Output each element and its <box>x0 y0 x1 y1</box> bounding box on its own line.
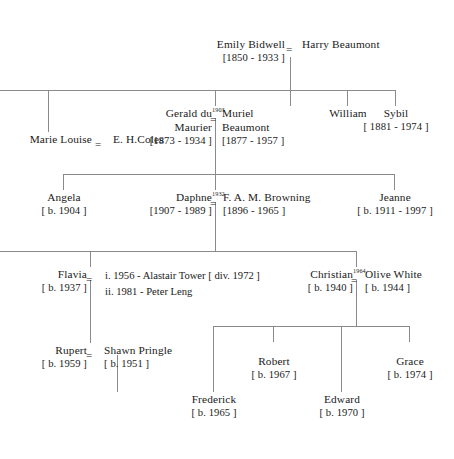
family-tree-diagram: Emily Bidwell [1850 - 1933 ] = Harry Bea… <box>0 0 454 459</box>
person-name: Flavia <box>8 268 87 282</box>
person-frederick: Frederick [ b. 1965 ] <box>174 393 254 420</box>
person-dates: [ b. 1911 - 1997 ] <box>351 205 439 218</box>
marriage-symbol-flavia: = <box>86 274 92 285</box>
person-daphne: Daphne [1907 - 1989 ] <box>133 191 212 218</box>
person-name: Harry Beaumont <box>302 38 432 52</box>
person-name: Edward <box>302 393 382 407</box>
person-dates: [1850 - 1933 ] <box>160 52 285 65</box>
person-shawn-pringle: Shawn Pringle [ b. 1951 ] <box>104 344 200 371</box>
person-name: Emily Bidwell <box>160 38 285 52</box>
person-angela: Angela [ b. 1904 ] <box>22 191 106 218</box>
marriage-symbol-rupert-shawn: = <box>86 350 92 361</box>
person-dates: [1896 - 1965 ] <box>223 205 349 218</box>
person-dates: [1873 - 1934 ] <box>130 135 212 148</box>
person-gerald-du-maurier: Gerald du Maurier [1873 - 1934 ] <box>130 107 212 147</box>
marriage-symbol-gerald-muriel: = <box>210 114 216 125</box>
connector-lines <box>0 0 454 459</box>
person-dates: [ b. 1965 ] <box>174 407 254 420</box>
person-flavia: Flavia [ b. 1937 ] <box>8 268 87 295</box>
person-dates: [1907 - 1989 ] <box>133 205 212 218</box>
person-dates: [ b. 1904 ] <box>22 205 106 218</box>
person-dates: [ b. 1959 ] <box>30 358 87 371</box>
person-dates: [1877 - 1957 ] <box>222 135 314 148</box>
person-name: Christian <box>272 268 353 282</box>
person-name: Robert <box>234 355 314 369</box>
person-name: Rupert <box>30 344 87 358</box>
person-dates: [ b. 1940 ] <box>272 282 353 295</box>
marriage-symbol-christian-olive: = <box>351 275 357 286</box>
person-dates: [ b. 1970 ] <box>302 407 382 420</box>
person-emily-bidwell: Emily Bidwell [1850 - 1933 ] <box>160 38 285 65</box>
person-name: F. A. M. Browning <box>223 191 349 205</box>
person-harry-beaumont: Harry Beaumont <box>302 38 432 52</box>
person-name-line1: Gerald du <box>130 107 212 121</box>
person-dates: [ b. 1937 ] <box>8 282 87 295</box>
person-name: Sybil <box>358 107 434 121</box>
person-muriel-beaumont: Muriel Beaumont [1877 - 1957 ] <box>222 107 314 147</box>
person-edward: Edward [ b. 1970 ] <box>302 393 382 420</box>
person-jeanne: Jeanne [ b. 1911 - 1997 ] <box>351 191 439 218</box>
person-christian: Christian [ b. 1940 ] <box>272 268 353 295</box>
person-name-line1: Muriel <box>222 107 314 121</box>
person-name-line2: Maurier <box>130 121 212 135</box>
person-name: Grace <box>370 355 450 369</box>
person-dates: [ 1881 - 1974 ] <box>358 121 434 134</box>
person-dates: [ b. 1967 ] <box>234 369 314 382</box>
person-dates: [ b. 1974 ] <box>370 369 450 382</box>
person-name: Olive White <box>365 268 451 282</box>
person-dates: [ b. 1944 ] <box>365 282 451 295</box>
flavia-marriages: i. 1956 - Alastair Tower [ div. 1972 ] i… <box>105 268 260 301</box>
person-robert: Robert [ b. 1967 ] <box>234 355 314 382</box>
person-name: Marie Louise <box>0 133 92 147</box>
flavia-marriage-1: i. 1956 - Alastair Tower [ div. 1972 ] <box>105 268 260 284</box>
marriage-symbol-marie-coles: = <box>95 139 101 150</box>
person-name: Daphne <box>133 191 212 205</box>
person-fam-browning: F. A. M. Browning [1896 - 1965 ] <box>223 191 349 218</box>
person-name-line2: Beaumont <box>222 121 314 135</box>
marriage-symbol-emily-harry: = <box>286 44 292 55</box>
marriage-symbol-daphne-browning: = <box>210 198 216 209</box>
person-grace: Grace [ b. 1974 ] <box>370 355 450 382</box>
person-marie-louise: Marie Louise <box>0 133 92 147</box>
flavia-marriage-2: ii. 1981 - Peter Leng <box>105 284 260 300</box>
person-sybil: Sybil [ 1881 - 1974 ] <box>358 107 434 134</box>
person-rupert: Rupert [ b. 1959 ] <box>30 344 87 371</box>
person-name: Jeanne <box>351 191 439 205</box>
person-name: Angela <box>22 191 106 205</box>
person-name: Frederick <box>174 393 254 407</box>
person-dates: [ b. 1951 ] <box>104 358 200 371</box>
person-olive-white: Olive White [ b. 1944 ] <box>365 268 451 295</box>
person-name: Shawn Pringle <box>104 344 200 358</box>
